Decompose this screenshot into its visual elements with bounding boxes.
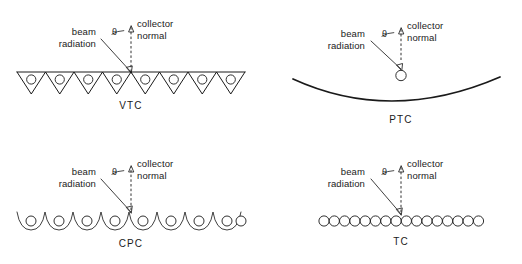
ptc-beam-line2: radiation (328, 40, 365, 51)
tc-beam-line2: radiation (328, 178, 365, 189)
vtc-beam-line2: radiation (59, 38, 96, 49)
cpc-reflector-profile (17, 212, 241, 230)
ptc-normal-line1: collector (407, 20, 443, 31)
panel-cpc: beam radiation collector normal θ CPC (0, 132, 261, 264)
cpc-normal-line1: collector (137, 158, 173, 169)
vtc-collector-normal-label: collector normal (137, 18, 207, 41)
vtc-receiver-tubes (27, 75, 236, 84)
tc-normal-line2: normal (407, 170, 437, 181)
ptc-beam-line1: beam (341, 28, 365, 39)
cpc-receiver-tubes (26, 216, 246, 226)
ptc-collector-normal-label: collector normal (407, 20, 477, 43)
vtc-caption: VTC (101, 100, 161, 112)
ptc-beam-radiation-label: beam radiation (303, 28, 365, 51)
tc-theta-label: θ (382, 167, 387, 179)
solar-collector-types-diagram: beam radiation collector normal θ VTC (0, 0, 522, 264)
panel-ptc: beam radiation collector normal θ PTC (261, 0, 522, 132)
ptc-receiver-tube (396, 70, 406, 80)
cpc-collector-normal-label: collector normal (137, 158, 207, 181)
panel-vtc: beam radiation collector normal θ VTC (0, 0, 261, 132)
tc-caption: TC (376, 236, 426, 248)
ptc-parabolic-reflector (293, 77, 500, 101)
vtc-trough-profile (17, 72, 245, 94)
vtc-drawing (0, 0, 261, 132)
vtc-beam-line1: beam (72, 26, 96, 37)
vtc-annotation (101, 26, 133, 73)
ptc-theta-label: θ (382, 29, 387, 41)
ptc-drawing (261, 0, 522, 132)
tc-normal-line1: collector (407, 158, 443, 169)
vtc-theta-label: θ (112, 27, 117, 39)
cpc-annotation (101, 166, 133, 213)
vtc-beam-radiation-label: beam radiation (34, 26, 96, 49)
cpc-beam-line2: radiation (59, 178, 96, 189)
tc-receiver-tubes (319, 216, 484, 226)
cpc-beam-radiation-label: beam radiation (34, 166, 96, 189)
tc-collector-normal-label: collector normal (407, 158, 477, 181)
cpc-caption: CPC (101, 238, 161, 250)
ptc-normal-line2: normal (407, 32, 437, 43)
vtc-normal-line2: normal (137, 30, 167, 41)
vtc-normal-line1: collector (137, 18, 173, 29)
cpc-theta-label: θ (112, 167, 117, 179)
panel-tc: beam radiation collector normal θ TC (261, 132, 522, 264)
ptc-caption: PTC (371, 114, 431, 126)
tc-beam-radiation-label: beam radiation (303, 166, 365, 189)
tc-annotation (371, 166, 403, 215)
tc-beam-line1: beam (341, 166, 365, 177)
cpc-normal-line2: normal (137, 170, 167, 181)
cpc-beam-line1: beam (72, 166, 96, 177)
ptc-annotation (371, 28, 403, 71)
